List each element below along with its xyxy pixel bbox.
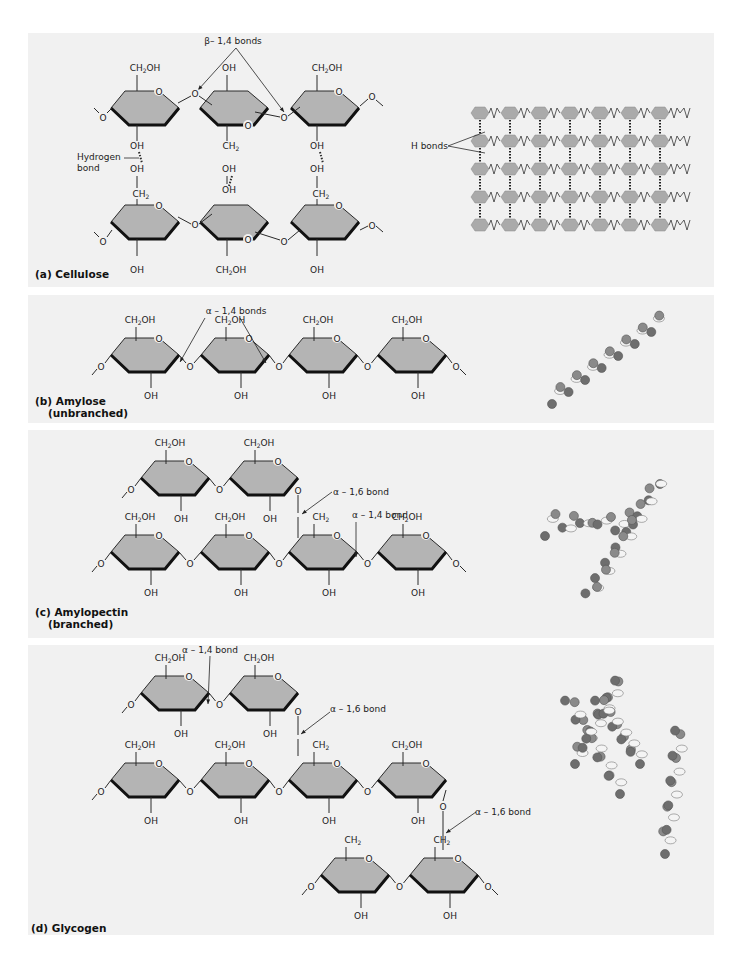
chem-label: OH [322, 391, 336, 401]
h-bonds-label: H bonds [411, 141, 448, 151]
glucose-ring: O [378, 758, 446, 797]
ch2oh-group: CH2OH [244, 438, 275, 449]
chem-label: OH [411, 391, 425, 401]
glucose-ring: O [141, 671, 209, 710]
glycosidic-oxygen: O [368, 92, 375, 102]
glycosidic-oxygen: O [307, 882, 314, 892]
chem-label: OH [322, 816, 336, 826]
chem-label: OH [310, 265, 324, 275]
chem-label: OH [234, 588, 248, 598]
ring-oxygen: O [274, 672, 281, 682]
glucose-ring: O [289, 530, 357, 569]
glycosidic-oxygen: O [99, 113, 106, 123]
ring-oxygen: O [454, 854, 461, 864]
glycosidic-oxygen: O [191, 89, 198, 99]
alpha-bond-arrow [302, 492, 332, 514]
glycosidic-oxygen: O [364, 559, 371, 569]
glycosidic-oxygen: O [484, 882, 491, 892]
glycosidic-oxygen: O [368, 221, 375, 231]
ring-oxygen: O [422, 334, 429, 344]
ch2oh-group: CH2OH [215, 512, 246, 523]
glucose-ring: O [111, 530, 179, 569]
alpha-14-bond-label: α – 1,4 bond [182, 645, 238, 655]
glycosidic-oxygen: O [216, 485, 223, 495]
glucose-ring: O [200, 205, 268, 245]
label-amylopectin-sub: (branched) [48, 618, 113, 631]
chem-label: OH [411, 816, 425, 826]
glycosidic-oxygen: O [97, 362, 104, 372]
chem-label: OH [310, 141, 324, 151]
ch2oh-group: CH2OH [125, 512, 156, 523]
alpha-bond-arrow [446, 812, 476, 833]
glycosidic-oxygen: O [439, 802, 446, 812]
ch2-group: CH2 [313, 740, 330, 751]
chem-label: OH [234, 816, 248, 826]
ch2oh-group: CH2OH [155, 653, 186, 664]
glucose-ring: O [321, 853, 389, 892]
glycosidic-oxygen: O [452, 559, 459, 569]
glycosidic-oxygen: O [275, 559, 282, 569]
chem-label: OH [263, 514, 277, 524]
glucose-ring: O [289, 758, 357, 797]
glycosidic-oxygen: O [275, 787, 282, 797]
glucose-ring: O [111, 200, 179, 239]
ch2oh-group: CH2OH [215, 315, 246, 326]
ring-oxygen: O [244, 235, 251, 245]
ring-oxygen: O [185, 672, 192, 682]
chem-label: OH [144, 816, 158, 826]
glucose-ring: O [378, 530, 446, 569]
ring-oxygen: O [155, 334, 162, 344]
glucose-ring: O [289, 333, 357, 372]
chem-label: OH [144, 391, 158, 401]
glycosidic-oxygen: O [97, 787, 104, 797]
glycosidic-oxygen: O [186, 362, 193, 372]
glycosidic-oxygen: O [294, 707, 301, 717]
glucose-ring: O [291, 86, 359, 125]
ring-oxygen: O [155, 531, 162, 541]
chem-label: OH [174, 729, 188, 739]
alpha-16-bond-label-2: α – 1,6 bond [475, 807, 531, 817]
ch2oh-group: CH2OH [155, 438, 186, 449]
ch2oh-group: CH2OH [125, 315, 156, 326]
ch2oh-group: CH2OH [312, 63, 343, 74]
chem-label: OH [354, 911, 368, 921]
ring-oxygen: O [422, 531, 429, 541]
glucose-ring: O [141, 456, 209, 495]
glycosidic-oxygen: O [280, 237, 287, 247]
ch2oh-group: CH2OH [244, 653, 275, 664]
glucose-ring: O [201, 758, 269, 797]
ring-oxygen: O [185, 457, 192, 467]
glycosidic-oxygen: O [280, 113, 287, 123]
ch2-group: CH2 [313, 512, 330, 523]
chem-label: OH [222, 185, 236, 195]
chem-label: OH [310, 164, 324, 174]
hydrogen-bond-label: bond [77, 163, 100, 173]
glucose-ring: O [291, 200, 359, 239]
hydrogen-bond-label: Hydrogen [77, 152, 121, 162]
ch2oh-group: CH2OH [392, 315, 423, 326]
glycosidic-oxygen: O [186, 559, 193, 569]
chem-label: OH [144, 588, 158, 598]
ring-oxygen: O [274, 457, 281, 467]
chem-label: OH [263, 729, 277, 739]
alpha-bond-arrow [301, 712, 330, 734]
glucose-ring: O [111, 333, 179, 372]
beta-14-bonds-label: β– 1,4 bonds [204, 36, 262, 46]
glycosidic-oxygen: O [294, 486, 301, 496]
ch2oh-group: CH2OH [303, 315, 334, 326]
alpha-16-bond-label: α – 1,6 bond [333, 487, 389, 497]
ring-oxygen: O [155, 87, 162, 97]
glycosidic-oxygen: O [99, 237, 106, 247]
ch2oh-group: CH2OH [125, 740, 156, 751]
cellulose-fiber-grid [471, 107, 690, 231]
glucose-ring: O [230, 456, 298, 495]
ring-oxygen: O [333, 531, 340, 541]
chem-label: OH [234, 391, 248, 401]
label-cellulose: (a) Cellulose [35, 268, 109, 281]
chem-label: OH [322, 588, 336, 598]
glycosidic-oxygen: O [216, 700, 223, 710]
label-amylose-sub: (unbranched) [48, 407, 128, 420]
glucose-ring: O [201, 530, 269, 569]
ring-oxygen: O [333, 334, 340, 344]
ch2oh-group: CH2OH [216, 265, 247, 276]
